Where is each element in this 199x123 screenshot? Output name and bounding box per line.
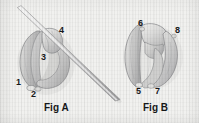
callout-8: 8 <box>175 26 180 35</box>
callout-3: 3 <box>41 53 46 62</box>
fig-a-artwork <box>0 0 199 123</box>
callout-5: 5 <box>136 87 141 96</box>
fig-a-caption: Fig A <box>44 103 69 113</box>
callout-4: 4 <box>59 26 64 35</box>
figure-sheet: 1 2 3 4 6 8 5 7 Fig A Fig B <box>0 0 199 123</box>
callout-2: 2 <box>31 90 36 99</box>
callout-7: 7 <box>155 87 160 96</box>
fig-b-caption: Fig B <box>143 103 168 113</box>
callout-1: 1 <box>16 78 21 87</box>
callout-6: 6 <box>138 19 143 28</box>
fig-b-base-node-7 <box>148 84 155 89</box>
fig-b-group <box>123 24 183 89</box>
